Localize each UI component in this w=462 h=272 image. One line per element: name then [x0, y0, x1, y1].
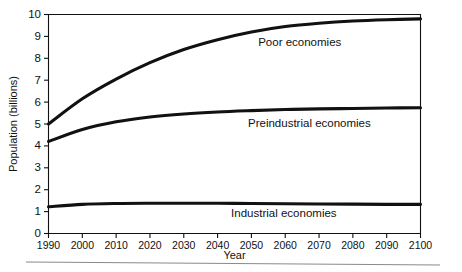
y-tick-label-3: 3 — [35, 161, 41, 173]
x-tick-label-2070: 2070 — [307, 239, 331, 251]
series-label-2: Industrial economies — [231, 207, 337, 219]
series-lines — [49, 19, 421, 207]
y-axis-title: Population (billions) — [7, 76, 19, 172]
y-tick-label-4: 4 — [35, 139, 42, 151]
y-axis-tick-labels: 012345678910 — [28, 8, 41, 239]
series-label-0: Poor economies — [258, 36, 341, 48]
x-tick-label-2000: 2000 — [71, 239, 95, 251]
x-tick-label-2020: 2020 — [138, 239, 162, 251]
series-labels: Poor economiesPreindustrial economiesInd… — [231, 36, 371, 219]
y-tick-label-2: 2 — [35, 183, 41, 195]
x-tick-label-2090: 2090 — [375, 239, 399, 251]
y-tick-label-0: 0 — [35, 227, 41, 239]
x-axis-title: Year — [223, 249, 246, 261]
footer-divider — [26, 262, 440, 265]
x-tick-label-2100: 2100 — [409, 239, 433, 251]
x-axis-ticks — [49, 234, 421, 239]
y-tick-label-1: 1 — [35, 205, 41, 217]
x-tick-label-1990: 1990 — [37, 239, 61, 251]
line-chart: 012345678910 199020002010202020302040205… — [0, 0, 462, 272]
y-tick-label-8: 8 — [35, 52, 41, 64]
y-tick-label-7: 7 — [35, 74, 41, 86]
population-projection-figure: 012345678910 199020002010202020302040205… — [0, 0, 462, 272]
x-tick-label-2080: 2080 — [341, 239, 365, 251]
series-label-1: Preindustrial economies — [248, 117, 371, 129]
y-tick-label-10: 10 — [28, 8, 41, 20]
x-tick-label-2010: 2010 — [104, 239, 128, 251]
x-tick-label-2030: 2030 — [172, 239, 196, 251]
x-tick-label-2060: 2060 — [274, 239, 298, 251]
y-tick-label-5: 5 — [35, 118, 41, 130]
y-tick-label-6: 6 — [35, 96, 41, 108]
y-tick-label-9: 9 — [35, 30, 41, 42]
